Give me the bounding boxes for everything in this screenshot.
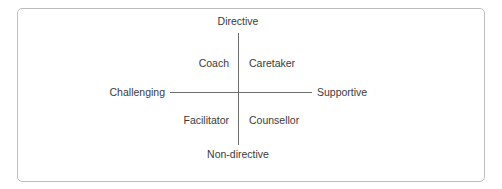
axis-label-supportive: Supportive: [317, 86, 367, 99]
quadrant-label-caretaker: Caretaker: [249, 57, 295, 70]
quadrant-label-counsellor: Counsellor: [249, 114, 299, 127]
quadrant-label-facilitator: Facilitator: [183, 114, 229, 127]
quadrant-diagram: Directive Non-directive Challenging Supp…: [0, 0, 502, 189]
axis-label-challenging: Challenging: [110, 86, 165, 99]
axis-label-directive: Directive: [218, 15, 259, 28]
axis-label-non-directive: Non-directive: [207, 148, 269, 161]
vertical-axis-line: [238, 33, 239, 145]
horizontal-axis-line: [170, 92, 312, 93]
quadrant-label-coach: Coach: [199, 57, 229, 70]
